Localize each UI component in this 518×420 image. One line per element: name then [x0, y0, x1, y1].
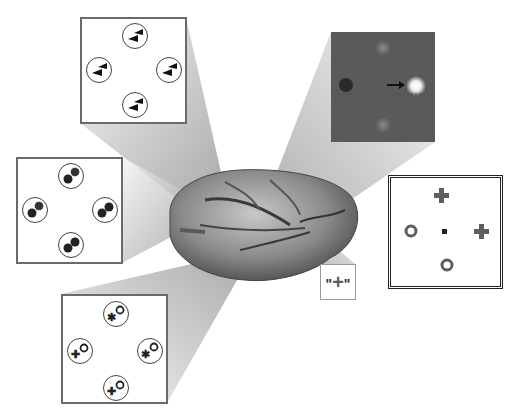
dots-stimulus-bottom — [58, 232, 84, 258]
mixed-stimulus-left: ✚ — [67, 338, 93, 364]
symbol-array-panel — [388, 175, 503, 289]
saccade-target-panel — [331, 32, 435, 142]
svg-text:✱: ✱ — [107, 311, 116, 323]
quote-right: " — [344, 276, 351, 292]
bars-stimulus-top — [122, 23, 148, 49]
plus-symbol-right — [474, 224, 489, 239]
dots-stimulus-top — [58, 163, 84, 189]
svg-text:✚: ✚ — [71, 348, 80, 360]
bars-stimulus-right — [156, 57, 182, 83]
circle-symbol-left — [406, 226, 416, 236]
svg-text:✱: ✱ — [141, 348, 150, 360]
svg-text:✚: ✚ — [107, 385, 116, 397]
mixed-stimulus-right: ✱ — [137, 338, 163, 364]
faint-target-top — [375, 40, 391, 56]
plus-symbol-top — [434, 188, 449, 203]
oriented-bars-panel — [80, 17, 187, 124]
dots-stimulus-right — [92, 197, 118, 223]
mixed-stimulus-bottom: ✚ — [103, 375, 129, 401]
fixation-point — [442, 229, 447, 234]
mixed-symbols-panel: ✱ ✚ ✱ ✚ — [61, 294, 168, 404]
plus-symbol: + — [332, 271, 344, 293]
dots-stimulus-left — [22, 197, 48, 223]
dark-fixation-dot — [339, 78, 353, 92]
bright-target — [406, 76, 426, 96]
bars-stimulus-bottom — [122, 92, 148, 118]
circle-symbol-bottom — [442, 260, 452, 270]
mixed-stimulus-top: ✱ — [103, 301, 129, 327]
faint-target-bottom — [375, 117, 391, 133]
quoted-plus-label: "+" — [320, 264, 356, 300]
dots-panel — [16, 157, 123, 264]
arrow-right-icon — [387, 81, 405, 89]
bars-stimulus-left — [86, 57, 112, 83]
